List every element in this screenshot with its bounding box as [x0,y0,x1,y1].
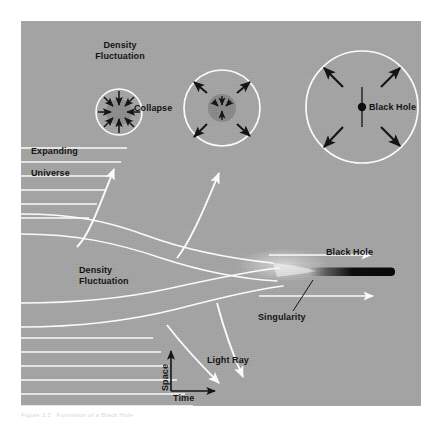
worldline-outer-upper [21,214,273,263]
light-ray-left [167,325,219,383]
label-density-fluctuation-top: Density Fluctuation [83,40,157,61]
label-light-ray: Light Ray [207,355,249,366]
diagram-artwork [21,21,421,406]
light-ray-right [217,303,243,377]
inset3-singularity-point [358,103,366,111]
label-universe: Universe [31,168,70,179]
label-singularity: Singularity [258,312,306,323]
label-black-hole-top: Black Hole [369,102,416,113]
worldline-inner-lower [21,268,279,303]
label-expanding: Expanding [31,146,78,157]
figure-caption: Figure 3.3 Formation of a Black Hole [21,411,421,419]
label-collapse: Collapse [134,103,172,114]
label-black-hole-main: Black Hole [326,247,373,258]
diagram-panel: Density Fluctuation Collapse Black Hole … [21,21,421,406]
light-ray-left-b [149,307,199,379]
pointer-to-inset1 [77,169,114,247]
pointer-to-inset2 [177,173,219,258]
expanding-universe-ray-lines-upper [21,148,127,218]
label-time: Time [173,393,194,404]
collapse-inset [184,70,260,146]
black-hole-singularity-bar [309,268,395,277]
figure-root: Density Fluctuation Collapse Black Hole … [0,0,444,428]
label-density-fluctuation-main: Density Fluctuation [79,265,129,286]
label-space: Space [160,364,171,391]
inset-pointer-arrows [77,169,219,258]
